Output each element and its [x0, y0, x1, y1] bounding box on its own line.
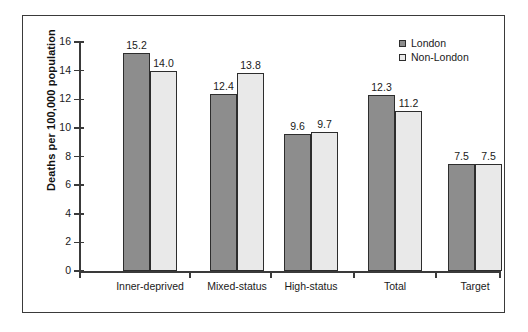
y-axis-tick-label-wrap: 16	[37, 36, 71, 48]
x-axis-category-label: Inner-deprived	[100, 280, 200, 292]
legend-item: London	[399, 37, 489, 50]
x-axis-tick	[353, 271, 355, 278]
y-axis-tick	[74, 213, 84, 215]
y-axis-tick	[74, 156, 84, 158]
y-axis-tick-label: 0	[45, 265, 71, 276]
y-axis-tick	[74, 184, 84, 186]
bar	[475, 164, 502, 271]
legend-label: Non-London	[411, 52, 469, 63]
legend-swatch-icon	[399, 54, 406, 61]
bar-value-label: 12.3	[362, 82, 401, 93]
y-axis-tick	[74, 70, 84, 72]
bar	[311, 132, 338, 271]
bar	[237, 73, 264, 271]
y-axis-tick	[74, 99, 84, 101]
y-axis-tick-label-wrap: 2	[37, 236, 71, 248]
x-axis-tick	[499, 271, 501, 278]
y-axis-tick	[74, 41, 84, 43]
bar	[395, 111, 422, 271]
bar	[150, 71, 177, 271]
y-axis-tick-label: 14	[45, 65, 71, 76]
bar-value-label: 11.2	[389, 98, 428, 109]
bar-value-label: 15.2	[117, 40, 156, 51]
y-axis-tick-label: 16	[45, 36, 71, 47]
x-axis-tick	[189, 271, 191, 278]
y-axis-tick-label-wrap: 6	[37, 179, 71, 191]
y-axis-tick-label: 4	[45, 208, 71, 219]
x-axis-tick	[270, 271, 272, 278]
plot-area: Deaths per 100,000 population 0246810121…	[23, 16, 504, 312]
legend-item: Non-London	[399, 51, 489, 64]
legend-swatch-icon	[399, 40, 406, 47]
y-axis-tick-label-wrap: 14	[37, 65, 71, 77]
y-axis-tick	[74, 242, 84, 244]
bar	[448, 164, 475, 271]
bar-value-label: 7.5	[469, 151, 508, 162]
y-axis-tick-label: 6	[45, 179, 71, 190]
y-axis-tick-label: 10	[45, 122, 71, 133]
x-axis-category-label: Target	[425, 280, 525, 292]
chart-figure-frame: Deaths per 100,000 population 0246810121…	[22, 15, 505, 313]
chart-legend: LondonNon-London	[395, 34, 493, 68]
bar-value-label: 14.0	[144, 58, 183, 69]
y-axis-tick-label-wrap: 10	[37, 122, 71, 134]
bar	[368, 95, 395, 271]
y-axis-tick-label-wrap: 8	[37, 151, 71, 163]
y-axis-tick-label: 2	[45, 236, 71, 247]
x-axis-tick	[435, 271, 437, 278]
y-axis-tick-label-wrap: 4	[37, 208, 71, 220]
bar-value-label: 12.4	[204, 81, 243, 92]
bar	[284, 134, 311, 271]
y-axis-tick	[74, 127, 84, 129]
bar-value-label: 9.7	[305, 119, 344, 130]
y-axis-tick-label: 8	[45, 151, 71, 162]
y-axis-tick-label: 12	[45, 93, 71, 104]
y-axis-tick-label-wrap: 12	[37, 93, 71, 105]
bar	[210, 94, 237, 271]
x-axis-tick	[79, 271, 81, 278]
bar-value-label: 13.8	[231, 60, 270, 71]
bar	[123, 53, 150, 271]
y-axis-tick-label-wrap: 0	[37, 265, 71, 277]
legend-label: London	[411, 38, 446, 49]
